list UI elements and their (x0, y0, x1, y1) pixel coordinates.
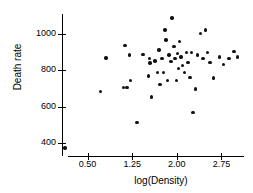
data-point (185, 51, 188, 54)
data-point (170, 16, 173, 19)
data-point (178, 40, 181, 43)
x-tick-label: 1.25 (112, 160, 152, 169)
data-point (156, 71, 159, 74)
data-point (227, 57, 230, 60)
data-point (196, 53, 199, 56)
data-point (148, 61, 151, 64)
data-point (199, 32, 202, 35)
y-axis-label: Death rate (13, 17, 23, 117)
x-axis-line (68, 156, 244, 157)
y-tick-mark (58, 107, 66, 108)
scatter-plot: 4006008001000 0.501.252.002.75 Death rat… (0, 0, 253, 193)
data-point (206, 51, 209, 54)
data-point (128, 53, 131, 56)
x-axis-label: log(Density) (76, 176, 246, 186)
y-tick-label: 1000 (20, 29, 56, 38)
data-point (104, 56, 107, 59)
data-point (160, 57, 163, 60)
data-point (173, 57, 176, 60)
data-point (222, 63, 225, 66)
y-tick-label-wrap: 400 (14, 138, 56, 147)
data-point (179, 55, 182, 58)
x-tick-label: 2.75 (201, 160, 241, 169)
data-point (153, 59, 156, 62)
data-point (129, 79, 132, 82)
y-tick-mark (58, 143, 66, 144)
y-tick-label: 800 (20, 65, 56, 74)
data-point (169, 60, 172, 63)
data-point (186, 61, 189, 64)
data-point (177, 67, 180, 70)
data-point (181, 64, 184, 67)
x-tick-label: 0.50 (68, 160, 108, 169)
data-point (190, 51, 193, 54)
data-point (141, 53, 144, 56)
data-point (236, 55, 239, 58)
data-point (162, 71, 165, 74)
data-point (167, 53, 170, 56)
data-point (201, 57, 204, 60)
data-point (191, 111, 194, 114)
data-point (175, 79, 178, 82)
y-tick-mark (58, 34, 66, 35)
data-point (63, 146, 66, 149)
data-point (218, 55, 221, 58)
data-point (148, 57, 151, 60)
data-point (172, 45, 175, 48)
data-point (123, 44, 126, 47)
y-tick-label: 400 (20, 138, 56, 147)
data-point (150, 95, 153, 98)
data-point (183, 71, 186, 74)
data-point (157, 48, 160, 51)
data-point (204, 28, 207, 31)
data-point (158, 83, 161, 86)
data-point (188, 76, 191, 79)
data-point (212, 76, 215, 79)
data-point (125, 86, 128, 89)
y-axis-line (62, 14, 63, 156)
data-point (147, 74, 150, 77)
data-point (163, 28, 166, 31)
data-point (232, 50, 235, 53)
y-tick-label: 600 (20, 102, 56, 111)
y-tick-mark (58, 70, 66, 71)
data-point (135, 121, 138, 124)
data-point (194, 87, 197, 90)
data-point (164, 38, 167, 41)
data-point (166, 79, 169, 82)
data-point (99, 90, 102, 93)
x-tick-label: 2.00 (157, 160, 197, 169)
data-point (208, 61, 211, 64)
